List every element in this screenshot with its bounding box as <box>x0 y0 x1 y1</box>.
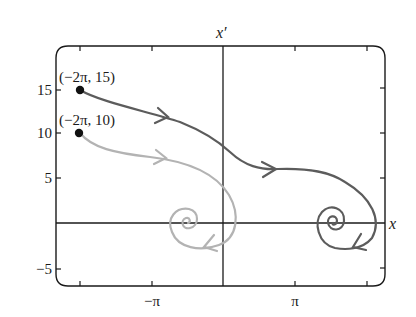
dark-trajectory <box>80 90 376 250</box>
light-trajectory <box>80 133 236 251</box>
x-tick-label-neg-pi: −π <box>144 293 160 309</box>
y-tick-label-5: 5 <box>45 170 53 186</box>
start-point-15 <box>76 86 84 94</box>
y-axis-label: x′ <box>215 24 227 41</box>
point-label-15: (−2π, 15) <box>59 69 115 86</box>
x-axis-label: x <box>388 215 396 232</box>
y-tick-label-15: 15 <box>37 82 52 98</box>
x-tick-label-pi: π <box>291 293 299 309</box>
y-tick-label-10: 10 <box>37 125 52 141</box>
start-point-10 <box>75 129 83 137</box>
point-label-10: (−2π, 10) <box>59 112 115 129</box>
y-ticks-right <box>380 88 385 268</box>
phase-portrait: (−2π, 15) (−2π, 10) 15 10 5 −5 −π π x x′ <box>0 0 416 317</box>
y-tick-label-neg5: −5 <box>36 261 52 277</box>
